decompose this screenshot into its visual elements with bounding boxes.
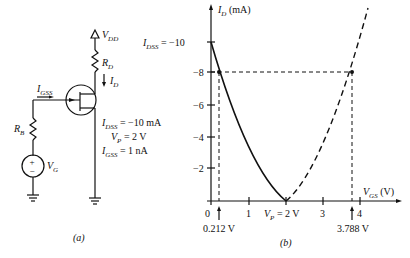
rb-label: RB: [13, 123, 25, 137]
x-axis-label: VGS (V): [363, 186, 394, 200]
marker-arrow-icon: [350, 206, 354, 211]
param-igss: IGSS = 1 nA: [101, 145, 149, 159]
current-arrow-icon: [102, 82, 106, 87]
gate-arrow-icon: [69, 98, 75, 102]
y-tick-6: −6: [193, 100, 204, 111]
ground-icon: [27, 195, 39, 201]
gate-resistor-icon: [30, 118, 36, 140]
minus-sign: −: [30, 166, 35, 176]
x-tick-0: 0: [205, 208, 210, 219]
igss-label: IGSS: [36, 83, 53, 97]
y-tick-2: −2: [193, 163, 204, 174]
marker-3788: 3.788 V: [337, 223, 370, 234]
x-tick-3: 3: [320, 208, 325, 219]
marker-arrow-icon: [217, 206, 221, 211]
drain-resistor-icon: [92, 50, 98, 72]
param-idss: IDSS = −10 mA: [101, 117, 162, 131]
x-tick-vp: VP = 2 V: [264, 208, 300, 222]
x-tick-4: 4: [357, 208, 362, 219]
vg-label: VG: [47, 160, 58, 174]
rd-label: RD: [101, 57, 113, 71]
caption-b: (b): [280, 237, 292, 249]
transfer-characteristic-chart: ID (mA) IDSS = −10 −8 −6 −4 −2 0 1 VP = …: [142, 4, 402, 249]
id-label: ID: [109, 75, 118, 89]
figure: VDD RD ID IGSS RB + − VG: [0, 0, 410, 258]
transfer-curve-dashed: [286, 8, 368, 201]
vdd-label: VDD: [102, 29, 118, 43]
y-tick-8: −8: [193, 67, 204, 78]
supply-terminal-icon: [91, 30, 99, 38]
ground-icon: [89, 198, 101, 204]
transfer-curve-solid: [211, 42, 286, 201]
y-axis-label: ID (mA): [217, 4, 251, 18]
marker-0212: 0.212 V: [203, 223, 236, 234]
caption-a: (a): [73, 232, 85, 244]
x-tick-1: 1: [246, 208, 251, 219]
circuit-diagram: VDD RD ID IGSS RB + − VG: [13, 29, 162, 244]
param-vp: VP = 2 V: [111, 131, 147, 145]
y-tick-idss: IDSS = −10: [142, 37, 185, 51]
y-tick-4: −4: [193, 132, 204, 143]
